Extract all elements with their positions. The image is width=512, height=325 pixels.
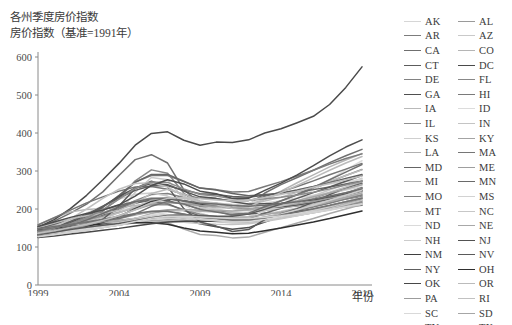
legend-label: IL [425, 118, 435, 129]
x-axis: 19992004200920142019 [28, 285, 373, 296]
legend-swatch-icon [404, 94, 421, 95]
legend-item-ar[interactable]: AR [404, 29, 454, 44]
legend-item-ak[interactable]: AK [404, 14, 454, 29]
legend-swatch-icon [458, 152, 475, 153]
legend-label: MS [479, 191, 495, 202]
chart-title: 各州季度房价指数 [10, 10, 139, 26]
legend-item-sd[interactable]: SD [458, 306, 508, 321]
legend-swatch-icon [404, 138, 421, 139]
legend-item-az[interactable]: AZ [458, 29, 508, 44]
plot-area: 0100200300400500600 19992004200920142019 [0, 46, 400, 296]
legend-swatch-icon [458, 313, 475, 314]
legend-label: HI [479, 89, 490, 100]
legend-item-ct[interactable]: CT [404, 58, 454, 73]
x-axis-title: 年份 [352, 288, 374, 304]
series-lines [38, 67, 362, 238]
legend-item-pa[interactable]: PA [404, 291, 454, 306]
legend-swatch-icon [458, 254, 475, 255]
y-tick-label: 300 [16, 166, 32, 177]
legend-item-de[interactable]: DE [404, 72, 454, 87]
legend-item-nm[interactable]: NM [404, 248, 454, 263]
legend-item-ky[interactable]: KY [458, 131, 508, 146]
legend-item-co[interactable]: CO [458, 43, 508, 58]
legend-swatch-icon [404, 167, 421, 168]
legend-item-ms[interactable]: MS [458, 189, 508, 204]
legend-swatch-icon [458, 108, 475, 109]
legend-item-ny[interactable]: NY [404, 262, 454, 277]
x-tick-label: 2004 [109, 288, 131, 296]
legend-item-md[interactable]: MD [404, 160, 454, 175]
legend-label: ID [479, 103, 490, 114]
legend-swatch-icon [404, 79, 421, 80]
legend-item-ri[interactable]: RI [458, 291, 508, 306]
legend-label: NJ [479, 235, 491, 246]
y-tick-label: 600 [16, 52, 32, 63]
legend-swatch-icon [404, 298, 421, 299]
y-axis: 0100200300400500600 [16, 52, 38, 291]
legend-item-sc[interactable]: SC [404, 306, 454, 321]
legend-item-ia[interactable]: IA [404, 102, 454, 117]
legend-label: CO [479, 45, 494, 56]
legend-label: SD [479, 308, 493, 319]
legend-swatch-icon [404, 254, 421, 255]
legend-item-me[interactable]: ME [458, 160, 508, 175]
legend-label: KS [425, 133, 439, 144]
legend-swatch-icon [404, 269, 421, 270]
legend-item-nh[interactable]: NH [404, 233, 454, 248]
legend-swatch-icon [404, 50, 421, 51]
legend-item-fl[interactable]: FL [458, 72, 508, 87]
legend-item-mt[interactable]: MT [404, 204, 454, 219]
legend-label: AZ [479, 30, 493, 41]
legend-label: FL [479, 74, 492, 85]
legend-label: DE [425, 74, 439, 85]
legend-item-al[interactable]: AL [458, 14, 508, 29]
legend-label: OR [479, 278, 494, 289]
legend-item-in[interactable]: IN [458, 116, 508, 131]
legend-item-tx[interactable]: TX [458, 320, 508, 325]
legend-item-nd[interactable]: ND [404, 218, 454, 233]
legend-label: MD [425, 162, 442, 173]
legend-item-il[interactable]: IL [404, 116, 454, 131]
legend-swatch-icon [458, 21, 475, 22]
legend-item-hi[interactable]: HI [458, 87, 508, 102]
legend-item-ks[interactable]: KS [404, 131, 454, 146]
legend-label: IN [479, 118, 490, 129]
legend-item-oh[interactable]: OH [458, 262, 508, 277]
legend-swatch-icon [404, 313, 421, 314]
legend-item-la[interactable]: LA [404, 145, 454, 160]
legend-item-ma[interactable]: MA [458, 145, 508, 160]
legend-item-id[interactable]: ID [458, 102, 508, 117]
legend-swatch-icon [404, 21, 421, 22]
house-price-index-figure: 各州季度房价指数 房价指数（基准=1991年） 0100200300400500… [0, 0, 512, 325]
legend-item-ok[interactable]: OK [404, 277, 454, 292]
legend-swatch-icon [404, 123, 421, 124]
legend-item-tn[interactable]: TN [404, 320, 454, 325]
legend-swatch-icon [404, 225, 421, 226]
legend-swatch-icon [404, 152, 421, 153]
legend-item-mo[interactable]: MO [404, 189, 454, 204]
legend-label: NV [479, 249, 495, 260]
legend-label: NH [425, 235, 441, 246]
legend-swatch-icon [404, 65, 421, 66]
legend-item-ca[interactable]: CA [404, 43, 454, 58]
legend-label: DC [479, 60, 494, 71]
legend-item-nc[interactable]: NC [458, 204, 508, 219]
legend-swatch-icon [404, 108, 421, 109]
legend-item-nv[interactable]: NV [458, 248, 508, 263]
chart-subtitle: 房价指数（基准=1991年） [10, 26, 139, 42]
legend-label: MO [425, 191, 442, 202]
legend-item-ga[interactable]: GA [404, 87, 454, 102]
legend-label: IA [425, 103, 436, 114]
legend-item-dc[interactable]: DC [458, 58, 508, 73]
legend-swatch-icon [458, 167, 475, 168]
legend-swatch-icon [404, 196, 421, 197]
legend-item-mn[interactable]: MN [458, 175, 508, 190]
legend-swatch-icon [458, 35, 475, 36]
legend-item-mi[interactable]: MI [404, 175, 454, 190]
legend-label: ND [425, 220, 441, 231]
legend-item-nj[interactable]: NJ [458, 233, 508, 248]
legend-label: AK [425, 16, 441, 27]
legend-item-ne[interactable]: NE [458, 218, 508, 233]
legend-label: KY [479, 133, 495, 144]
legend-item-or[interactable]: OR [458, 277, 508, 292]
